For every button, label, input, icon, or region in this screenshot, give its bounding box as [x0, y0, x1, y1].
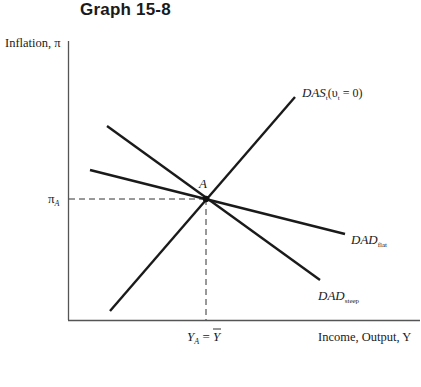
dad-flat-curve	[90, 170, 345, 234]
x-axis-label: Income, Output, Y	[318, 330, 411, 344]
chart: A Inflation, π πA YA = Y Income, Output,…	[0, 0, 421, 387]
pi-a-label: πA	[48, 191, 60, 208]
dad-steep-curve	[107, 126, 320, 280]
point-a-label: A	[198, 176, 207, 191]
equilibrium-point	[203, 196, 209, 202]
dad-steep-label: DADsteep	[317, 288, 360, 305]
y-axis-label: Inflation, π	[5, 36, 61, 50]
das-label: DASt(υt = 0)	[301, 85, 362, 102]
ya-label: YA = Y	[187, 329, 222, 346]
das-curve	[110, 97, 295, 311]
dad-flat-label: DADflat	[350, 232, 387, 249]
